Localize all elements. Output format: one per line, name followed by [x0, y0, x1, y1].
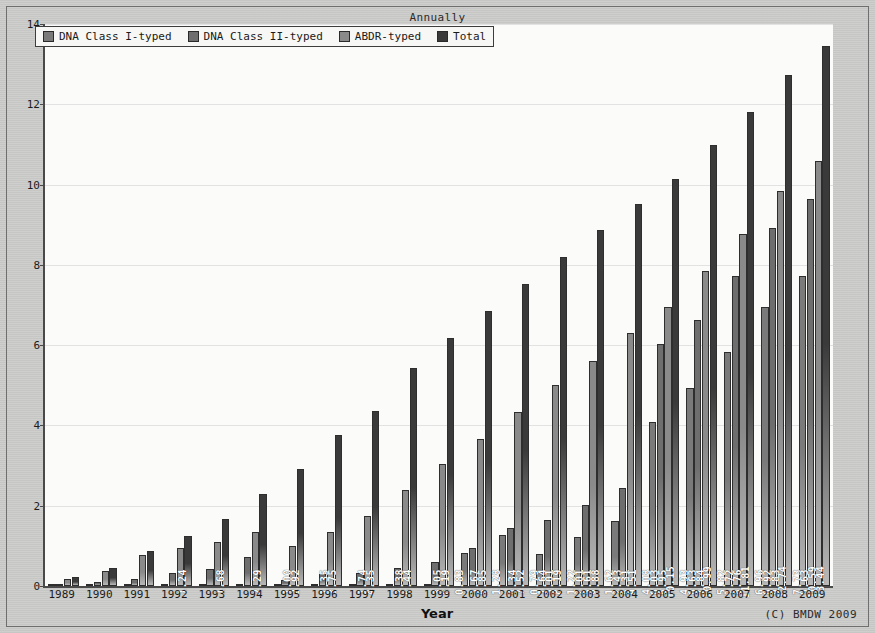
bar[interactable]: 8.76: [739, 234, 746, 586]
bar-group: 1.353.75: [311, 24, 342, 586]
x-tick-label: 2007: [724, 588, 751, 601]
bar[interactable]: 4.34: [514, 412, 521, 586]
bar[interactable]: [109, 568, 116, 586]
bar[interactable]: 1.24: [184, 536, 191, 586]
x-tick-label: 1996: [311, 588, 338, 601]
bar[interactable]: [386, 584, 393, 586]
bar[interactable]: [349, 584, 356, 586]
y-tick-mark: [40, 586, 45, 587]
legend-label: DNA Class II-typed: [204, 30, 323, 43]
y-tick-label: 0: [33, 580, 40, 593]
bar[interactable]: [236, 584, 243, 586]
bar[interactable]: [131, 579, 138, 586]
bar[interactable]: [169, 573, 176, 586]
bar[interactable]: 4.08: [649, 422, 656, 586]
bar-group: 0.791.645.018.19: [536, 24, 567, 586]
x-tick-label: 2002: [536, 588, 563, 601]
y-tick-label: 2: [33, 499, 40, 512]
bar[interactable]: 7.52: [522, 284, 529, 586]
bar[interactable]: [274, 584, 281, 586]
bar[interactable]: 5.44: [410, 368, 417, 586]
legend-item[interactable]: Total: [437, 30, 486, 43]
bar[interactable]: 2.92: [297, 469, 304, 586]
bar[interactable]: 10.99: [710, 145, 717, 586]
bar[interactable]: [244, 557, 251, 586]
y-tick-label: 12: [27, 98, 40, 111]
bar[interactable]: 10.59: [815, 161, 822, 586]
bar[interactable]: 8.92: [769, 228, 776, 586]
bar[interactable]: 6.03: [657, 344, 664, 586]
copyright-credit: (C) BMDW 2009: [764, 608, 857, 621]
legend-swatch-icon: [437, 31, 448, 42]
bar-group: 7.739.6310.5913.44: [799, 24, 830, 586]
bar[interactable]: [199, 584, 206, 586]
bar[interactable]: 7.72: [732, 276, 739, 586]
bar-group: 2.385.44: [386, 24, 417, 586]
bar[interactable]: 13.44: [822, 46, 829, 586]
bar[interactable]: [86, 584, 93, 586]
bar[interactable]: 3.05: [439, 464, 446, 586]
x-tick-label: 2009: [799, 588, 826, 601]
bar[interactable]: 4.35: [372, 411, 379, 586]
bar[interactable]: [72, 577, 79, 586]
bar[interactable]: 7.84: [702, 271, 709, 586]
bar[interactable]: [147, 551, 154, 586]
bar[interactable]: 2.29: [259, 494, 266, 586]
bar[interactable]: 9.63: [807, 199, 814, 586]
bar[interactable]: [139, 555, 146, 586]
y-tick-label: 8: [33, 258, 40, 271]
legend-item[interactable]: DNA Class II-typed: [188, 30, 323, 43]
legend-item[interactable]: ABDR-typed: [339, 30, 421, 43]
bar[interactable]: [206, 569, 213, 586]
x-tick-label: 2004: [611, 588, 638, 601]
bar[interactable]: 9.51: [635, 204, 642, 586]
bar-group: 1.68: [199, 24, 230, 586]
bar[interactable]: 5.82: [724, 352, 731, 586]
bar[interactable]: 10.15: [672, 179, 679, 586]
bar[interactable]: 6.95: [664, 307, 671, 586]
bar[interactable]: 12.74: [785, 75, 792, 586]
bar[interactable]: 1.28: [499, 535, 506, 586]
bar-group: 1.222.015.618.88: [574, 24, 605, 586]
bar[interactable]: 6.31: [627, 333, 634, 586]
bar[interactable]: 8.19: [560, 257, 567, 586]
bar[interactable]: 3.67: [477, 439, 484, 586]
bar[interactable]: 11.81: [747, 112, 754, 586]
bar[interactable]: [161, 584, 168, 586]
bar[interactable]: 6.96: [761, 307, 768, 586]
bar[interactable]: 7.73: [799, 276, 806, 586]
bar[interactable]: 6.63: [694, 320, 701, 586]
bar[interactable]: [424, 584, 431, 586]
y-tick-label: 10: [27, 178, 40, 191]
bar[interactable]: 8.88: [597, 230, 604, 586]
bar-group: 1.622.436.319.51: [611, 24, 642, 586]
bar[interactable]: 5.61: [589, 361, 596, 586]
bar[interactable]: [94, 582, 101, 586]
bar[interactable]: 6.85: [485, 311, 492, 586]
bar[interactable]: 9.83: [777, 191, 784, 586]
bar-group: 1.284.347.52: [499, 24, 530, 586]
y-tick-mark: [40, 24, 45, 25]
bar[interactable]: 3.75: [335, 435, 342, 586]
y-tick-mark: [40, 185, 45, 186]
bar[interactable]: [311, 584, 318, 586]
y-tick-mark: [40, 265, 45, 266]
legend: DNA Class I-typedDNA Class II-typedABDR-…: [35, 26, 494, 47]
x-tick-label: 2005: [649, 588, 676, 601]
bar[interactable]: [102, 571, 109, 586]
legend-label: DNA Class I-typed: [59, 30, 172, 43]
bar[interactable]: [124, 584, 131, 586]
bar[interactable]: 6.19: [447, 338, 454, 586]
bar[interactable]: 5.01: [552, 385, 559, 586]
bar[interactable]: 0.83: [461, 553, 468, 586]
y-tick-mark: [40, 506, 45, 507]
x-tick-label: 1989: [49, 588, 76, 601]
bar[interactable]: 1.68: [222, 519, 229, 586]
x-tick-label: 2000: [461, 588, 488, 601]
bar-group: 1.744.35: [349, 24, 380, 586]
bar[interactable]: [64, 579, 71, 586]
bar[interactable]: [56, 584, 63, 586]
bar[interactable]: 4.93: [686, 388, 693, 586]
legend-item[interactable]: DNA Class I-typed: [43, 30, 172, 43]
bar[interactable]: [48, 584, 55, 586]
